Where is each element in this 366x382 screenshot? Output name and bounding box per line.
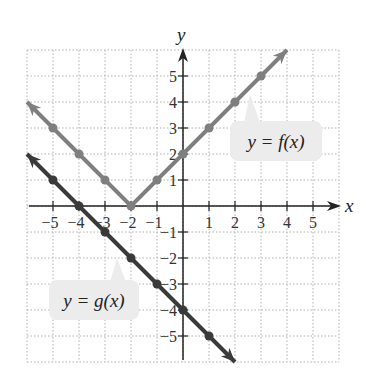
data-point: [205, 124, 214, 133]
data-point: [101, 176, 110, 185]
x-tick-label: −2: [119, 214, 136, 231]
x-axis-label: x: [344, 195, 354, 216]
x-tick-label: 2: [231, 214, 239, 231]
data-point: [153, 280, 162, 289]
x-tick-label: 4: [283, 214, 291, 231]
graph: −5−4−3−2−11234554321−1−2−3−4−5 y = f(x)y…: [0, 0, 366, 382]
data-point: [179, 150, 188, 159]
y-tick-label: −1: [160, 224, 177, 241]
data-point: [127, 254, 136, 263]
x-tick-label: 1: [205, 214, 213, 231]
x-tick-label: −4: [67, 214, 84, 231]
y-tick-label: 4: [169, 94, 177, 111]
y-axis-label: y: [175, 24, 186, 45]
y-tick-label: 3: [169, 120, 177, 137]
data-point: [49, 124, 58, 133]
data-point: [231, 98, 240, 107]
y-tick-label: 5: [169, 68, 177, 85]
data-point: [257, 72, 266, 81]
x-tick-label: −5: [41, 214, 58, 231]
data-point: [153, 176, 162, 185]
callout-label: y = g(x): [61, 290, 124, 312]
data-point: [205, 332, 214, 341]
data-point: [127, 202, 136, 211]
callout-pointer: [244, 94, 260, 123]
y-tick-label: −5: [160, 328, 177, 345]
data-point: [75, 202, 84, 211]
y-tick-label: −2: [160, 250, 177, 267]
data-point: [179, 306, 188, 315]
y-tick-label: 1: [169, 172, 177, 189]
y-tick-label: −4: [160, 302, 177, 319]
data-point: [101, 228, 110, 237]
data-point: [75, 150, 84, 159]
x-tick-label: 3: [257, 214, 265, 231]
f-label: y = f(x): [230, 94, 322, 161]
x-tick-label: 5: [309, 214, 317, 231]
callout-label: y = f(x): [245, 131, 304, 153]
callout-pointer: [110, 258, 126, 282]
data-point: [49, 176, 58, 185]
g-label: y = g(x): [49, 258, 139, 320]
